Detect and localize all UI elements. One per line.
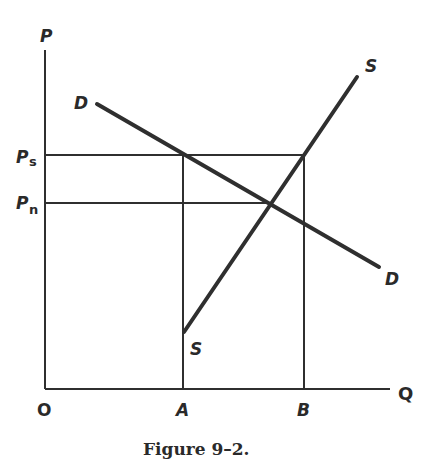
- ps-label-main: P: [16, 147, 29, 167]
- demand-label-end: D: [385, 269, 399, 289]
- a-label: A: [174, 400, 189, 420]
- p-axis-label: P: [40, 26, 53, 46]
- supply-label-end: S: [365, 56, 377, 76]
- q-axis-label: Q: [398, 383, 413, 404]
- supply-label-start: S: [190, 339, 202, 359]
- pn-label-main: P: [16, 193, 29, 213]
- origin-label: O: [37, 400, 51, 420]
- figure-caption: Figure 9–2.: [143, 439, 250, 459]
- supply-demand-diagram: P Q O P s P n A B D D S S Figure 9–2.: [0, 0, 426, 469]
- ps-label-sub: s: [29, 154, 37, 169]
- demand-curve: [97, 104, 379, 267]
- supply-curve: [184, 77, 357, 332]
- pn-label-sub: n: [29, 202, 38, 217]
- b-label: B: [297, 400, 310, 420]
- demand-label-start: D: [74, 93, 88, 113]
